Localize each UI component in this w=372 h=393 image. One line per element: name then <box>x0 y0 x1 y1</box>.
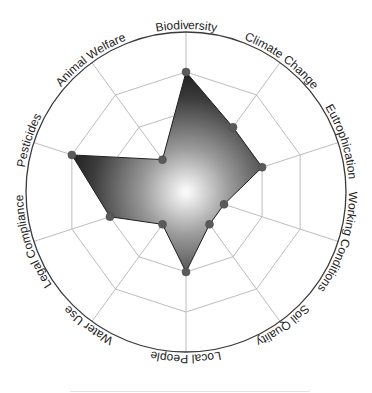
axis-label: Animal Welfare <box>53 30 128 89</box>
data-point <box>182 268 190 276</box>
axis-label: Eutrophication <box>322 101 359 179</box>
axis-label-wrap: Biodiversity <box>0 0 189 35</box>
axis-label: Soil Quality <box>254 302 312 349</box>
radar-chart: BiodiversityClimate ChangeEutrophication… <box>0 0 372 393</box>
data-area <box>72 72 262 272</box>
data-point <box>229 123 237 131</box>
data-point <box>158 220 166 228</box>
axis-label: Climate Change <box>243 29 322 92</box>
axis-label: Pesticides <box>14 111 45 168</box>
data-point <box>106 213 114 221</box>
axis-label: Legal Compliance <box>12 194 54 291</box>
data-point <box>220 200 228 208</box>
data-point <box>182 68 190 76</box>
axis-label: Water Use <box>61 303 116 348</box>
footer-divider <box>70 391 310 392</box>
data-point <box>206 220 214 228</box>
data-point <box>258 163 266 171</box>
data-point <box>68 151 76 159</box>
data-point <box>158 156 166 164</box>
axis-label: Local People <box>149 348 223 366</box>
